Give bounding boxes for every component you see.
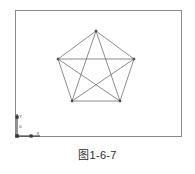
vertex-node <box>119 100 121 102</box>
figure-container: X Y 0 图1-6-7 <box>0 0 195 174</box>
vertex-node <box>57 58 59 60</box>
figure-caption-symbol: 图 <box>78 149 89 162</box>
vertex-node <box>71 100 73 102</box>
viewport-border <box>16 11 182 137</box>
vertex-node <box>133 58 135 60</box>
cad-drawing-viewport[interactable]: X Y 0 <box>0 0 195 145</box>
ucs-y-label: Y <box>19 114 22 119</box>
ucs-x-arrow-icon <box>30 134 33 137</box>
ucs-x-label: X <box>37 131 40 136</box>
cad-canvas[interactable]: X Y 0 <box>0 0 195 145</box>
ucs-origin-marker <box>15 134 19 138</box>
figure-caption: 图1-6-7 <box>0 148 195 163</box>
figure-caption-index: 1-6-7 <box>90 149 117 161</box>
vertex-node <box>95 30 97 32</box>
